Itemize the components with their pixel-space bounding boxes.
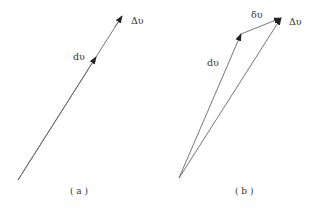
delta-v-vector-b [179,18,281,178]
caption-a: ( a ) [70,186,88,196]
dv-vector-b [179,34,241,178]
dv-label-a: dυ [73,51,85,62]
vector-diagram: dυ Δυ ( a ) dυ δυ Δυ ( b ) [0,0,319,210]
delta-v-arrow-icon-a [115,16,122,27]
small-delta-v-vector-b [241,18,281,34]
dv-label-b: dυ [207,57,219,68]
small-delta-v-label-b: δυ [251,9,263,20]
figure-a: dυ Δυ ( a ) [18,15,144,196]
caption-b: ( b ) [235,186,254,196]
delta-v-label-a: Δυ [131,15,144,26]
dv-arrow-icon-a [18,57,96,180]
delta-v-label-b: Δυ [289,16,302,27]
figure-b: dυ δυ Δυ ( b ) [179,9,302,196]
